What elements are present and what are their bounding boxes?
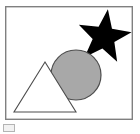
- figure-canvas: [0, 0, 140, 134]
- bottom-left-marker: [4, 125, 15, 132]
- shapes-illustration: [0, 0, 140, 134]
